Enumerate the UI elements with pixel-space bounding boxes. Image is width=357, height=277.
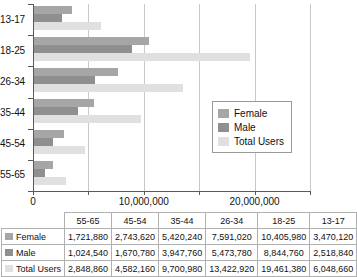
- table-cell-value: 5,473,780: [206, 245, 258, 261]
- table-cell-value: 1,721,880: [65, 229, 112, 245]
- y-axis-tick: [28, 129, 33, 130]
- table-column-header: 55-65: [65, 213, 112, 229]
- bar-male: [34, 138, 53, 146]
- table-row: Total Users2,848,8604,582,1609,700,98013…: [2, 261, 357, 277]
- series-swatch-icon: [5, 233, 13, 240]
- y-axis-category-label: 13-17: [0, 14, 28, 25]
- table-cell-value: 3,947,760: [159, 245, 206, 261]
- bar-female: [34, 99, 94, 107]
- x-axis-tick-label: 0: [30, 196, 36, 207]
- y-axis-tick: [28, 160, 33, 161]
- gridline: [255, 4, 256, 191]
- gridline: [199, 4, 200, 191]
- bar-total-users: [34, 146, 85, 154]
- series-name: Male: [16, 248, 36, 258]
- legend-swatch-icon: [218, 109, 229, 118]
- y-axis-category-label: 35-44: [0, 107, 28, 118]
- y-axis-tick: [28, 98, 33, 99]
- table-row-header: Female: [2, 229, 65, 245]
- table-cell-value: 2,848,860: [65, 261, 112, 277]
- table-column-header: 26-34: [206, 213, 258, 229]
- table-cell-value: 6,048,660: [310, 261, 357, 277]
- bar-female: [34, 161, 53, 169]
- gridline: [310, 4, 311, 191]
- legend-item: Male: [218, 120, 284, 134]
- bar-total-users: [34, 177, 66, 185]
- table-cell-value: 2,743,620: [112, 229, 159, 245]
- table-cell-value: 19,461,380: [258, 261, 310, 277]
- legend-item: Total Users: [218, 134, 284, 148]
- legend-item: Female: [218, 106, 284, 120]
- gridline: [144, 4, 145, 191]
- table-cell-value: 8,844,760: [258, 245, 310, 261]
- bar-total-users: [34, 84, 183, 92]
- chart-legend: FemaleMaleTotal Users: [212, 101, 292, 153]
- bar-total-users: [34, 53, 250, 61]
- chart-data-table: 55-6545-5435-4426-3418-2513-17Female1,72…: [1, 212, 357, 277]
- table-cell-value: 10,405,980: [258, 229, 310, 245]
- legend-label: Male: [234, 122, 256, 133]
- gridline: [88, 4, 89, 191]
- legend-swatch-icon: [218, 123, 229, 132]
- legend-swatch-icon: [218, 137, 229, 146]
- table-cell-value: 1,024,540: [65, 245, 112, 261]
- table-row: Female1,721,8802,743,6205,420,2407,591,0…: [2, 229, 357, 245]
- x-axis-tick: [33, 191, 34, 195]
- x-axis-tick-label: 20,000,000: [230, 196, 280, 207]
- series-name: Female: [16, 232, 46, 242]
- x-axis-line: [33, 191, 311, 192]
- x-axis-tick: [255, 191, 256, 195]
- bar-male: [34, 107, 78, 115]
- series-swatch-icon: [5, 265, 13, 272]
- table-column-header: 13-17: [310, 213, 357, 229]
- table-cell-value: 5,420,240: [159, 229, 206, 245]
- table-row: Male1,024,5401,670,7803,947,7605,473,780…: [2, 245, 357, 261]
- table-cell-value: 1,670,780: [112, 245, 159, 261]
- y-axis-category-label: 55-65: [0, 169, 28, 180]
- x-axis-tick: [88, 191, 89, 195]
- y-axis-category-label: 18-25: [0, 45, 28, 56]
- series-swatch-icon: [5, 249, 13, 256]
- table-cell-value: 4,582,160: [112, 261, 159, 277]
- x-axis-tick: [144, 191, 145, 195]
- series-name: Total Users: [16, 264, 61, 274]
- table-header-row: 55-6545-5435-4426-3418-2513-17: [2, 213, 357, 229]
- bar-female: [34, 6, 72, 14]
- x-axis-tick: [310, 191, 311, 195]
- bar-male: [34, 169, 45, 177]
- y-axis-line: [33, 4, 34, 191]
- x-axis-tick-label: 10,000,000: [119, 196, 169, 207]
- table-row-header: Total Users: [2, 261, 65, 277]
- table-column-header: 35-44: [159, 213, 206, 229]
- plot-area: [33, 4, 310, 191]
- legend-label: Total Users: [234, 136, 284, 147]
- bar-female: [34, 130, 64, 138]
- table-row-header: Male: [2, 245, 65, 261]
- y-axis-category-label: 26-34: [0, 76, 28, 87]
- bar-female: [34, 37, 149, 45]
- table-corner-cell: [2, 213, 65, 229]
- bar-total-users: [34, 22, 101, 30]
- y-axis-category-label: 45-54: [0, 138, 28, 149]
- legend-label: Female: [234, 108, 267, 119]
- table-cell-value: 13,422,920: [206, 261, 258, 277]
- table-cell-value: 3,470,120: [310, 229, 357, 245]
- table-column-header: 45-54: [112, 213, 159, 229]
- bar-male: [34, 76, 95, 84]
- bar-male: [34, 14, 62, 22]
- y-axis-tick: [28, 4, 33, 5]
- x-axis-tick: [199, 191, 200, 195]
- y-axis-tick: [28, 35, 33, 36]
- bar-female: [34, 68, 118, 76]
- bar-chart: 13-1718-2526-3435-4445-5455-65 010,000,0…: [0, 0, 335, 210]
- y-axis-tick: [28, 66, 33, 67]
- y-axis-tick: [28, 191, 33, 192]
- table-cell-value: 2,518,840: [310, 245, 357, 261]
- bar-total-users: [34, 115, 141, 123]
- table-column-header: 18-25: [258, 213, 310, 229]
- table-cell-value: 7,591,020: [206, 229, 258, 245]
- table-cell-value: 9,700,980: [159, 261, 206, 277]
- bar-male: [34, 45, 132, 53]
